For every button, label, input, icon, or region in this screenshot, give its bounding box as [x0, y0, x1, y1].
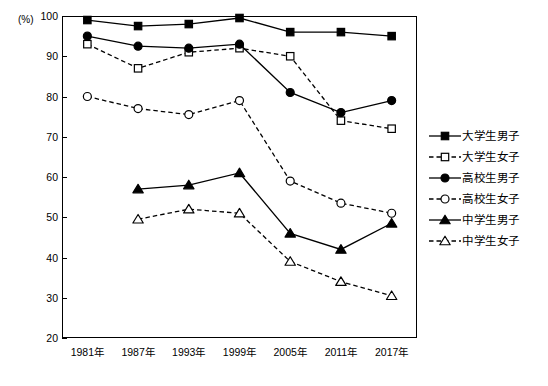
data-point-filled-square [337, 28, 344, 35]
data-point-open-circle [83, 93, 91, 101]
legend-marker [428, 129, 462, 143]
legend-item: 大学生男子 [428, 125, 544, 146]
data-point-filled-circle [441, 174, 449, 182]
legend-marker [428, 213, 462, 227]
data-point-filled-square [236, 14, 243, 21]
data-point-filled-circle [286, 88, 294, 96]
legend-item: 中学生男子 [428, 209, 544, 230]
data-point-filled-square [287, 28, 294, 35]
data-point-open-square [84, 40, 91, 47]
data-point-open-circle [236, 97, 244, 105]
legend-label: 大学生男子 [462, 129, 520, 143]
data-point-open-triangle [386, 291, 396, 300]
legend-marker [428, 234, 462, 248]
data-point-open-square [388, 125, 395, 132]
data-point-filled-circle [236, 40, 244, 48]
legend-label: 中学生男子 [462, 213, 520, 227]
legend-label: 高校生男子 [462, 171, 520, 185]
data-point-open-square [441, 153, 448, 160]
data-point-open-square [287, 53, 294, 60]
data-point-filled-square [388, 32, 395, 39]
data-point-filled-circle [337, 109, 345, 117]
data-point-filled-circle [134, 42, 142, 50]
data-point-open-circle [388, 209, 396, 217]
data-point-open-circle [286, 177, 294, 185]
data-point-open-circle [337, 199, 345, 207]
series-大学生男子 [84, 14, 396, 40]
legend-marker [428, 171, 462, 185]
data-point-filled-circle [185, 44, 193, 52]
series-line [138, 209, 392, 296]
chart-legend: 大学生男子大学生女子高校生男子高校生女子中学生男子中学生女子 [428, 125, 544, 251]
data-point-open-square [337, 117, 344, 124]
data-point-open-triangle [440, 236, 450, 245]
legend-item: 中学生女子 [428, 230, 544, 251]
chart-container: (%) 2030405060708090100 1981年1987年1993年1… [0, 0, 548, 386]
data-point-filled-circle [83, 32, 91, 40]
legend-marker [428, 192, 462, 206]
legend-item: 高校生女子 [428, 188, 544, 209]
legend-marker [428, 150, 462, 164]
legend-label: 高校生女子 [462, 192, 520, 206]
data-point-open-triangle [336, 277, 346, 286]
data-point-filled-square [134, 22, 141, 29]
series-line [87, 44, 391, 129]
data-point-filled-triangle [234, 168, 244, 177]
series-大学生女子 [84, 40, 396, 132]
data-point-filled-square [84, 16, 91, 23]
data-point-open-circle [441, 195, 449, 203]
data-point-open-square [134, 65, 141, 72]
data-point-filled-square [185, 20, 192, 27]
legend-item: 高校生男子 [428, 167, 544, 188]
series-中学生男子 [133, 168, 397, 253]
data-point-open-triangle [184, 204, 194, 213]
series-中学生女子 [133, 204, 397, 299]
legend-label: 中学生女子 [462, 234, 520, 248]
data-point-open-circle [134, 105, 142, 113]
data-point-filled-circle [388, 97, 396, 105]
legend-label: 大学生女子 [462, 150, 520, 164]
data-point-filled-square [441, 132, 448, 139]
series-line [87, 97, 391, 214]
legend-item: 大学生女子 [428, 146, 544, 167]
data-point-filled-triangle [386, 218, 396, 227]
data-point-open-circle [185, 111, 193, 119]
